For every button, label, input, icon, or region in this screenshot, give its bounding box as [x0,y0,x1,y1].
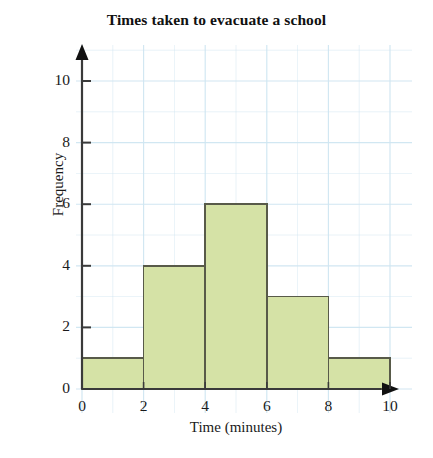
histogram-bar [144,266,206,389]
y-axis-title: Frequency [50,141,67,229]
x-axis-title: Time (minutes) [82,419,390,436]
histogram-bar [328,358,390,389]
histogram-bar [82,358,144,389]
x-tick-label: 2 [131,397,157,415]
y-tick-label: 4 [44,256,70,274]
histogram-bar [205,204,267,389]
histogram-chart: Times taken to evacuate a school 0246810… [0,0,433,458]
y-tick-label: 2 [44,317,70,335]
y-tick-label: 0 [44,379,70,397]
x-tick-label: 8 [315,397,341,415]
x-tick-label: 0 [69,397,95,415]
histogram-bar [267,297,329,389]
x-tick-label: 6 [254,397,280,415]
x-tick-label: 4 [192,397,218,415]
y-tick-label: 10 [44,71,70,89]
x-tick-label: 10 [377,397,403,415]
